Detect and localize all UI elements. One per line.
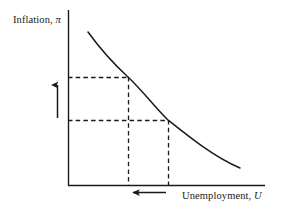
plot-canvas [0, 0, 286, 209]
y-axis-label-text: Inflation, [13, 14, 56, 25]
x-axis-variable-symbol: U [254, 190, 262, 201]
x-axis-label-text: Unemployment, [182, 190, 254, 201]
y-axis-label: Inflation, π [13, 14, 61, 25]
y-axis-variable-symbol: π [56, 14, 61, 25]
phillips-curve [88, 32, 240, 168]
x-axis-label: Unemployment, U [182, 190, 262, 201]
phillips-curve-figure: Inflation, π Unemployment, U [0, 0, 286, 209]
